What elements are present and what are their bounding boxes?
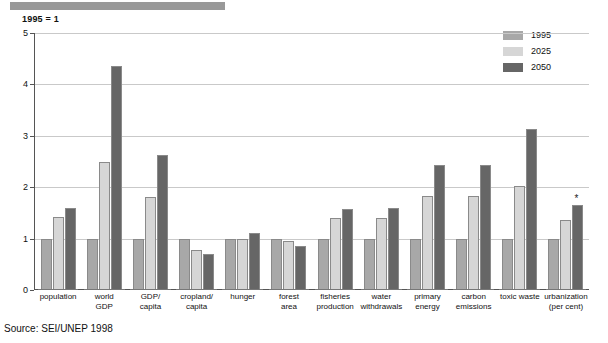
bar-group: * — [543, 33, 589, 290]
y-axis-tick-label: 3 — [6, 132, 28, 141]
x-axis-label-line: emissions — [452, 302, 496, 312]
x-axis-label-line: GDP — [82, 302, 126, 312]
bar — [434, 165, 445, 290]
y-axis-tick-mark — [30, 187, 34, 188]
x-axis-label: population — [35, 292, 81, 312]
category-underline — [176, 289, 217, 290]
y-axis-tick-mark — [30, 84, 34, 85]
bar — [65, 208, 76, 290]
bar — [133, 239, 144, 290]
category-underline — [499, 289, 540, 290]
x-axis-label-line: world — [82, 292, 126, 302]
y-axis-tick-mark — [30, 290, 34, 291]
bar — [145, 197, 156, 290]
bar — [342, 209, 353, 290]
bar — [468, 196, 479, 290]
category-underline — [84, 289, 125, 290]
category-underline — [361, 289, 402, 290]
category-underline — [269, 289, 310, 290]
y-axis-tick-mark — [30, 136, 34, 137]
bar-group — [81, 33, 127, 290]
bar — [526, 129, 537, 290]
x-axis-label: carbonemissions — [451, 292, 497, 312]
bar — [318, 239, 329, 290]
bar — [548, 239, 559, 290]
bar-group — [358, 33, 404, 290]
bar — [249, 233, 260, 290]
x-axis-label: hunger — [220, 292, 266, 312]
bar — [376, 218, 387, 290]
bar-group — [451, 33, 497, 290]
x-axis-label-line: urbanization — [544, 292, 588, 302]
bar — [111, 66, 122, 290]
x-axis-label-line: capita — [175, 302, 219, 312]
bar-group — [497, 33, 543, 290]
x-axis-label-line: withdrawals — [359, 302, 403, 312]
bar — [87, 239, 98, 290]
bar-group — [404, 33, 450, 290]
x-axis-label-line: production — [313, 302, 357, 312]
x-axis-label: fisheriesproduction — [312, 292, 358, 312]
y-axis-tick-label: 2 — [6, 183, 28, 192]
x-axis-label: worldGDP — [81, 292, 127, 312]
bar — [388, 208, 399, 290]
bar: * — [572, 205, 583, 290]
y-axis-tick-label: 0 — [6, 286, 28, 295]
category-underline — [407, 289, 448, 290]
bar — [295, 246, 306, 290]
x-axis-label: cropland/capita — [174, 292, 220, 312]
bar — [330, 218, 341, 290]
x-axis-label-line: energy — [405, 302, 449, 312]
bar-group — [127, 33, 173, 290]
bar-group — [174, 33, 220, 290]
x-axis-label-line: GDP/ — [128, 292, 172, 302]
bar — [271, 239, 282, 290]
bar — [410, 239, 421, 290]
unit-caption: 1995 = 1 — [22, 14, 59, 24]
x-axis-label-line: (per cent) — [544, 302, 588, 312]
category-underline — [546, 289, 587, 290]
x-axis-label-line: cropland/ — [175, 292, 219, 302]
bar — [41, 239, 52, 290]
category-underline — [222, 289, 263, 290]
bar — [456, 239, 467, 290]
bar-group — [220, 33, 266, 290]
bar — [191, 250, 202, 290]
bar-groups: * — [35, 33, 589, 290]
bar — [364, 239, 375, 290]
x-axis-label-line: forest — [267, 292, 311, 302]
bar — [237, 239, 248, 290]
x-axis-label-line: primary — [405, 292, 449, 302]
x-axis-label: toxic waste — [497, 292, 543, 312]
bar-group — [312, 33, 358, 290]
x-axis-label-line: water — [359, 292, 403, 302]
x-axis-label: primaryenergy — [404, 292, 450, 312]
x-axis-category-labels: populationworldGDPGDP/capitacropland/cap… — [35, 292, 589, 312]
x-axis-label-line: population — [36, 292, 80, 302]
category-underline — [453, 289, 494, 290]
x-axis-label-line: carbon — [452, 292, 496, 302]
category-underline — [130, 289, 171, 290]
y-axis-tick-label: 4 — [6, 80, 28, 89]
bar — [422, 196, 433, 290]
x-axis-label-line: toxic waste — [498, 292, 542, 302]
bar — [514, 186, 525, 290]
bar-group — [35, 33, 81, 290]
bar — [283, 241, 294, 290]
x-axis-label-line: area — [267, 302, 311, 312]
bar — [179, 239, 190, 290]
x-axis-label: urbanization(per cent) — [543, 292, 589, 312]
x-axis-label: waterwithdrawals — [358, 292, 404, 312]
header-decoration-bar — [10, 2, 225, 10]
bar — [157, 155, 168, 290]
chart-page: 1995 = 1 199520252050 012345 * populatio… — [0, 0, 608, 343]
bar — [560, 220, 571, 290]
x-axis-label-line: fisheries — [313, 292, 357, 302]
bar — [53, 217, 64, 290]
bar — [225, 239, 236, 290]
bar-group — [266, 33, 312, 290]
bar — [480, 165, 491, 290]
x-axis-label-line: capita — [128, 302, 172, 312]
y-axis-tick-mark — [30, 239, 34, 240]
y-axis-tick-label: 5 — [6, 29, 28, 38]
